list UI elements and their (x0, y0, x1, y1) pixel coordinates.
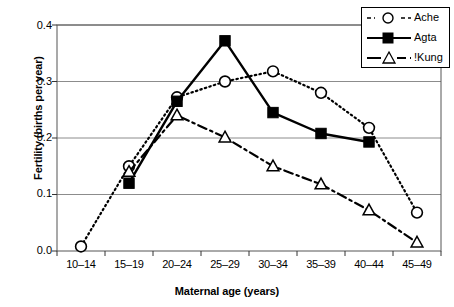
data-point-ache (268, 66, 279, 77)
data-point-agta (172, 96, 182, 106)
legend-label-ache: Ache (414, 11, 439, 24)
legend-swatch-ache (365, 8, 413, 28)
chart-legend: Ache Agta !Kung (361, 7, 450, 68)
legend-label-agta: Agta (414, 31, 437, 44)
series-line-ache (81, 71, 417, 246)
data-point-agta (268, 107, 278, 117)
legend-swatch-agta (365, 28, 413, 48)
data-point-ache (220, 76, 231, 87)
data-point-kung (363, 204, 375, 215)
x-axis-title: Maternal age (years) (57, 285, 397, 297)
data-series-layer (76, 36, 423, 252)
x-tick-label: 45–49 (387, 258, 447, 270)
data-point-ache (316, 87, 327, 98)
legend-swatch-kung (365, 48, 413, 68)
data-point-ache (364, 122, 375, 133)
legend-item-agta: Agta (362, 28, 451, 48)
series-line-kung (129, 115, 417, 242)
series-line-agta (129, 41, 369, 183)
data-point-kung (411, 236, 423, 247)
data-point-agta (364, 137, 374, 147)
data-point-agta (220, 36, 230, 46)
data-point-kung (267, 160, 279, 171)
legend-item-ache: Ache (362, 8, 451, 28)
fertility-line-chart: Fertility (births per year) 0.0 0.1 0.2 … (0, 0, 454, 307)
data-point-agta (316, 128, 326, 138)
legend-item-kung: !Kung (362, 48, 451, 68)
data-point-kung (171, 109, 183, 120)
legend-label-kung: !Kung (414, 51, 443, 64)
data-point-agta (124, 178, 134, 188)
data-point-ache (76, 241, 87, 252)
data-point-ache (412, 207, 423, 218)
